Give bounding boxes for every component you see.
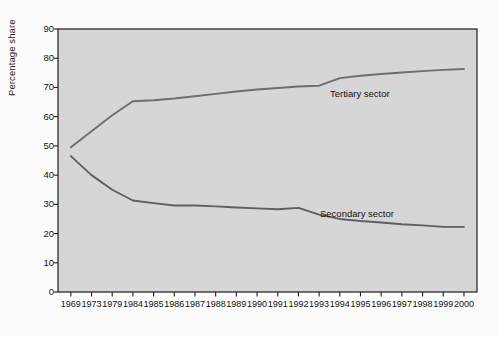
plot-background [58,29,477,292]
series-annotation-label: Tertiary sector [330,88,390,99]
plot-canvas [0,0,498,337]
chart-figure: Percentage share 0102030405060708090 196… [0,0,498,337]
series-annotation-label: Secondary sector [320,208,394,219]
